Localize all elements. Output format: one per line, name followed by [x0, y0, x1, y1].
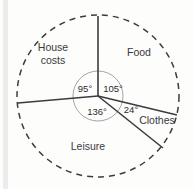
sector-label-food: Food [127, 46, 151, 58]
angle-label-house-costs: 95° [78, 83, 93, 94]
angle-label-clothes: 24° [124, 104, 139, 115]
sector-label-house-costs-line2: costs [41, 54, 66, 66]
sector-label-clothes: Clothes [139, 114, 175, 126]
sector-label-leisure: Leisure [71, 140, 106, 152]
pie-chart-figure: House costs Food Clothes Leisure 95° 105… [0, 0, 194, 189]
angle-label-food: 105° [103, 83, 123, 94]
radius-line-house-leisure [18, 96, 98, 103]
sector-label-house-costs-line1: House [38, 41, 69, 53]
pie-chart-canvas: House costs Food Clothes Leisure 95° 105… [0, 0, 194, 189]
angle-label-leisure: 136° [87, 106, 107, 117]
